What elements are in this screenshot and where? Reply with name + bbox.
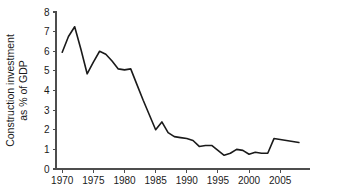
y-axis-ticks: 876543210 bbox=[44, 7, 56, 175]
y-tick-label: 3 bbox=[44, 105, 50, 116]
chart-container: 876543210 197019751980198519901995200020… bbox=[0, 0, 345, 190]
x-tick-label: 1990 bbox=[176, 175, 199, 186]
x-tick-label: 1985 bbox=[145, 175, 168, 186]
y-tick-label: 6 bbox=[44, 46, 50, 57]
x-tick-label: 1995 bbox=[207, 175, 230, 186]
x-tick-label: 1975 bbox=[82, 175, 105, 186]
line-chart: 876543210 197019751980198519901995200020… bbox=[0, 0, 345, 190]
y-tick-label: 8 bbox=[44, 7, 50, 18]
x-axis-ticks: 19701975198019851990199520002005 bbox=[51, 169, 292, 186]
x-tick-label: 1980 bbox=[113, 175, 136, 186]
y-tick-label: 7 bbox=[44, 26, 50, 37]
y-axis-title-line1: Construction investment bbox=[4, 34, 16, 147]
y-tick-label: 1 bbox=[44, 144, 50, 155]
x-tick-label: 2005 bbox=[269, 175, 292, 186]
y-tick-label: 0 bbox=[44, 164, 50, 175]
y-axis-title-line2: as % of GDP bbox=[17, 60, 29, 121]
x-tick-label: 2000 bbox=[238, 175, 261, 186]
y-tick-label: 5 bbox=[44, 65, 50, 76]
x-tick-label: 1970 bbox=[51, 175, 74, 186]
y-tick-label: 2 bbox=[44, 124, 50, 135]
data-series-line bbox=[62, 27, 299, 156]
y-tick-label: 4 bbox=[44, 85, 50, 96]
